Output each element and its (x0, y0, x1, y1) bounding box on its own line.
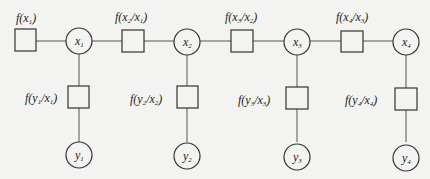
edges (36, 41, 406, 142)
factor-transition-x3-x2 (231, 30, 253, 52)
factor-transition-x2-x1 (122, 30, 144, 52)
factor-observation-y3-x3 (286, 87, 308, 109)
factor-prior-x1 (15, 29, 36, 51)
factor-observation-y4-x4 (395, 88, 417, 110)
label-factor-observation-2: f(y2/x2) (130, 92, 162, 107)
label-factor-observation-4: f(y4/x4) (345, 93, 377, 108)
label-factor-observation-3: f(y3/x3) (238, 93, 270, 108)
factor-observation-y1-x1 (68, 86, 89, 108)
label-factor-transition-3: f(x4/x3) (336, 10, 368, 25)
factor-observation-y2-x2 (177, 86, 198, 108)
label-factor-transition-2: f(x3/x2) (225, 10, 257, 25)
label-factor-observation-1: f(y1/x1) (25, 91, 57, 106)
factor-transition-x4-x3 (341, 31, 363, 52)
label-factor-prior: f(x1) (16, 11, 36, 26)
factor-graph: x1 x2 x3 x4 y1 y2 y3 y4 f(x1) f(x2/x1) f… (0, 0, 430, 179)
label-factor-transition-1: f(x2/x1) (115, 10, 147, 25)
